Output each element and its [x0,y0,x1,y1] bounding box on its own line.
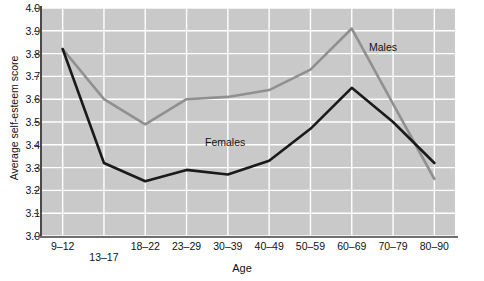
x-tick-label: 18–22 [131,241,160,252]
x-tick-label: 23–29 [172,241,201,252]
x-tick-label: 70–79 [378,241,407,252]
series-label-females: Females [205,136,245,148]
x-tick-label: 60–69 [337,241,366,252]
x-tick-label: 9–12 [51,241,74,252]
series-label-males: Males [369,41,397,53]
x-tick-label: 13–17 [89,252,118,263]
x-tick-label: 50–59 [296,241,325,252]
x-tick-label: 80–90 [420,241,449,252]
x-tick-label: 30–39 [213,241,242,252]
y-axis-title: Average self-esteem score [8,8,20,228]
x-axis-title: Age [0,262,484,274]
chart-container: 4.03.93.83.73.63.53.43.33.23.13.0 9–1213… [0,0,484,281]
x-tick-label: 40–49 [255,241,284,252]
